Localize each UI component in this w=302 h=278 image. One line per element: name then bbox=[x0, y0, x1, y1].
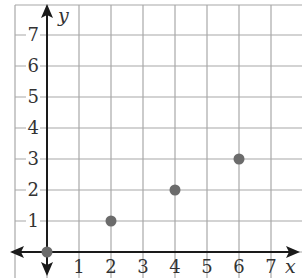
data-point bbox=[170, 185, 181, 196]
grid-lines bbox=[15, 5, 302, 278]
coordinate-plane: 12345671234567 x y bbox=[0, 0, 302, 278]
y-tick-label: 3 bbox=[28, 148, 39, 169]
x-tick-label: 5 bbox=[201, 256, 212, 277]
axes bbox=[10, 4, 300, 276]
x-tick-label: 3 bbox=[137, 256, 148, 277]
data-point bbox=[106, 216, 117, 227]
x-tick-label: 7 bbox=[265, 256, 276, 277]
x-axis-label: x bbox=[285, 255, 296, 277]
x-tick-label: 6 bbox=[233, 256, 244, 277]
y-tick-label: 1 bbox=[28, 210, 39, 231]
x-tick-label: 1 bbox=[73, 256, 84, 277]
y-tick-label: 5 bbox=[28, 86, 39, 107]
data-point bbox=[42, 247, 53, 258]
data-point bbox=[234, 154, 245, 165]
y-axis-label: y bbox=[57, 4, 69, 26]
y-tick-label: 2 bbox=[28, 179, 39, 200]
x-tick-label: 2 bbox=[105, 256, 116, 277]
y-tick-label: 6 bbox=[28, 55, 39, 76]
x-tick-label: 4 bbox=[169, 256, 180, 277]
y-tick-label: 7 bbox=[28, 24, 39, 45]
y-tick-label: 4 bbox=[28, 117, 39, 138]
